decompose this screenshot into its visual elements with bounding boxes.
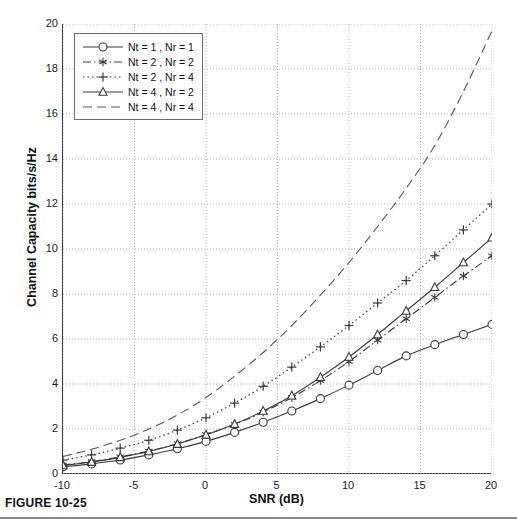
legend-item: Nt = 4 , Nr = 2	[81, 84, 194, 99]
data-point-marker	[287, 363, 296, 372]
data-point-marker	[201, 413, 210, 422]
y-tick-label: 4	[24, 377, 58, 389]
y-tick-label: 20	[24, 17, 58, 29]
y-tick-label: 12	[24, 197, 58, 209]
data-point-marker	[259, 418, 267, 426]
figure-10-25: Channel Capacity bits/s/Hz 0246810121416…	[0, 0, 517, 528]
series-line	[63, 204, 492, 460]
data-series	[63, 199, 492, 464]
data-point-marker	[402, 306, 410, 314]
x-tick-label: 5	[273, 479, 279, 491]
legend-line-sample	[81, 100, 125, 114]
data-point-marker	[374, 330, 382, 338]
data-point-marker	[316, 395, 324, 403]
x-tick-label: 10	[342, 479, 354, 491]
data-point-marker	[99, 43, 107, 51]
legend-label: Nt = 4 , Nr = 2	[125, 86, 194, 98]
data-point-marker	[259, 382, 268, 391]
data-point-marker	[459, 258, 467, 266]
y-tick-label: 18	[24, 62, 58, 74]
data-point-marker	[288, 391, 296, 399]
x-tick-label: 0	[202, 479, 208, 491]
data-point-marker	[431, 341, 439, 349]
data-point-marker	[488, 320, 492, 328]
legend-line-sample	[81, 40, 125, 54]
data-point-marker	[99, 87, 107, 95]
x-tick-label: -10	[54, 479, 70, 491]
data-point-marker	[345, 353, 353, 361]
caption-divider	[0, 517, 517, 519]
y-tick-label: 10	[24, 242, 58, 254]
data-point-marker	[230, 399, 239, 408]
data-point-marker	[431, 283, 439, 291]
data-point-marker	[231, 420, 239, 428]
data-point-marker	[345, 381, 353, 389]
y-tick-label: 0	[24, 467, 58, 479]
legend-item: Nt = 4 , Nr = 4	[81, 99, 194, 114]
data-point-marker	[460, 272, 467, 280]
x-tick-label: 20	[485, 479, 497, 491]
x-axis-ticks: -10-505101520	[62, 474, 491, 494]
y-tick-label: 2	[24, 422, 58, 434]
figure-caption: FIGURE 10-25	[5, 496, 87, 510]
x-axis-title: SNR (dB)	[62, 492, 491, 506]
data-point-marker	[488, 252, 492, 260]
legend-line-sample	[81, 85, 125, 99]
data-point-marker	[430, 251, 439, 260]
data-point-marker	[487, 199, 492, 208]
data-point-marker	[488, 233, 492, 241]
legend-label: Nt = 4 , Nr = 4	[125, 101, 194, 113]
legend-label: Nt = 2 , Nr = 2	[125, 56, 194, 68]
legend-line-sample	[81, 55, 125, 69]
data-point-marker	[403, 315, 410, 323]
legend-item: Nt = 1 , Nr = 1	[81, 39, 194, 54]
y-tick-label: 16	[24, 107, 58, 119]
y-axis-ticks: 02468101214161820	[18, 24, 58, 474]
data-point-marker	[374, 367, 382, 375]
y-tick-label: 8	[24, 287, 58, 299]
legend-label: Nt = 1 , Nr = 1	[125, 41, 194, 53]
x-tick-label: -5	[129, 479, 139, 491]
legend-line-sample	[81, 70, 125, 84]
legend-label: Nt = 2 , Nr = 4	[125, 71, 194, 83]
data-point-marker	[144, 436, 153, 445]
data-point-marker	[316, 373, 324, 381]
data-point-marker	[231, 428, 239, 436]
x-tick-label: 15	[413, 479, 425, 491]
chart-legend: Nt = 1 , Nr = 1Nt = 2 , Nr = 2Nt = 2 , N…	[74, 33, 203, 120]
data-point-marker	[459, 331, 467, 339]
data-point-marker	[98, 72, 107, 81]
data-point-marker	[402, 352, 410, 360]
y-tick-label: 14	[24, 152, 58, 164]
data-point-marker	[173, 426, 182, 435]
data-point-marker	[316, 342, 325, 351]
data-point-marker	[288, 407, 296, 415]
legend-item: Nt = 2 , Nr = 4	[81, 69, 194, 84]
data-point-marker	[116, 444, 125, 453]
legend-item: Nt = 2 , Nr = 2	[81, 54, 194, 69]
y-tick-label: 6	[24, 332, 58, 344]
